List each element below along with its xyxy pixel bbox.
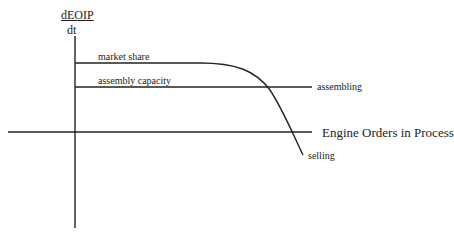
y-axis-label-denominator: dt [67, 24, 76, 36]
market-share-label: market share [98, 52, 149, 62]
x-axis-label: Engine Orders in Process [322, 126, 454, 139]
assembly-capacity-label: assembly capacity [98, 76, 171, 86]
y-axis-label-numerator: dEOIP [61, 9, 94, 21]
selling-label: selling [308, 151, 335, 161]
assembling-label: assembling [317, 82, 362, 92]
